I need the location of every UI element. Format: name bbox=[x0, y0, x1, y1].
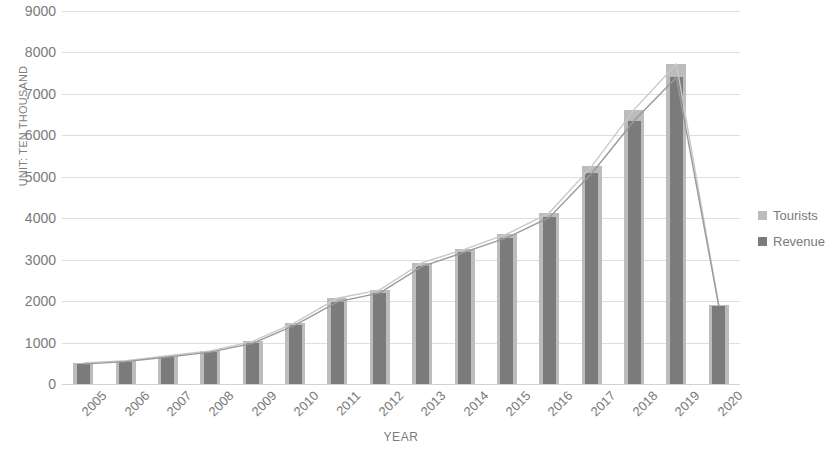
y-axis-tick-label: 0 bbox=[10, 376, 56, 392]
y-axis-tick-label: 4000 bbox=[10, 210, 56, 226]
y-axis-tick-label: 5000 bbox=[10, 169, 56, 185]
revenue-trend-line bbox=[83, 77, 719, 364]
y-axis-tick-label: 9000 bbox=[10, 3, 56, 19]
y-axis-tick-labels: 9000800070006000500040003000200010000 bbox=[8, 0, 56, 450]
legend-label: Tourists bbox=[773, 208, 818, 223]
x-axis-tick-labels: 2005200620072008200920102011201220132014… bbox=[62, 388, 740, 434]
gridline bbox=[62, 384, 740, 385]
tourists-trend-line bbox=[83, 64, 719, 363]
y-axis-tick-label: 6000 bbox=[10, 127, 56, 143]
y-axis-tick-label: 1000 bbox=[10, 335, 56, 351]
chart-legend: TouristsRevenue bbox=[758, 208, 825, 260]
legend-label: Revenue bbox=[773, 234, 825, 249]
y-axis-tick-label: 8000 bbox=[10, 44, 56, 60]
legend-item[interactable]: Revenue bbox=[758, 234, 825, 249]
y-axis-tick-label: 7000 bbox=[10, 86, 56, 102]
y-axis-tick-label: 3000 bbox=[10, 252, 56, 268]
series-connector-lines bbox=[62, 11, 740, 384]
plot-area bbox=[62, 11, 740, 384]
legend-item[interactable]: Tourists bbox=[758, 208, 825, 223]
legend-swatch-icon bbox=[758, 211, 767, 220]
tourism-bar-chart: UNIT: TEN THOUSAND 900080007000600050004… bbox=[0, 0, 836, 450]
legend-swatch-icon bbox=[758, 237, 767, 246]
x-axis-title: YEAR bbox=[62, 430, 740, 444]
y-axis-tick-label: 2000 bbox=[10, 293, 56, 309]
